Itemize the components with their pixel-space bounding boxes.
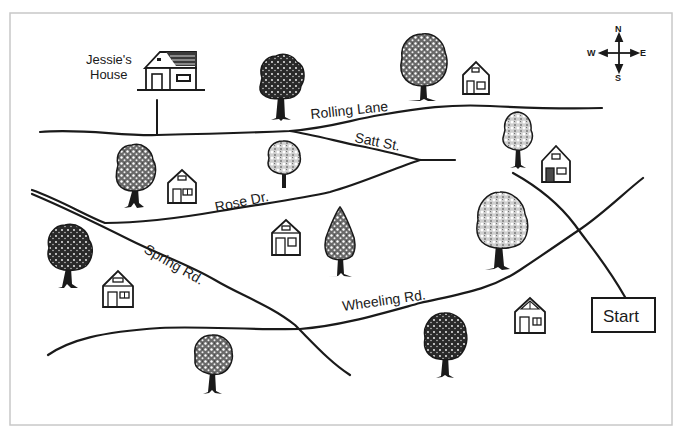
compass-south: S — [615, 73, 621, 83]
jessies-house-label-line2: House — [90, 67, 128, 82]
start-label: Start — [603, 307, 639, 326]
compass-west: W — [587, 48, 596, 58]
compass-north: N — [615, 24, 622, 34]
neighborhood-map: Rolling Lane Satt St. Rose Dr. Spring Rd… — [0, 0, 682, 438]
jessies-house-label-line1: Jessie's — [86, 52, 132, 67]
start-marker[interactable]: Start — [592, 298, 655, 332]
compass-east: E — [640, 48, 646, 58]
